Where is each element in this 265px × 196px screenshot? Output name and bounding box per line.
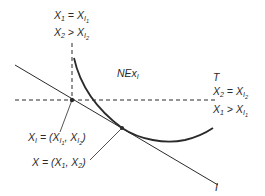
- label-x1-gt-xi1: X1 > XI1: [213, 104, 248, 118]
- leader-xi: [60, 100, 72, 132]
- label-x2-eq-xi2: X2 = XI2: [213, 86, 248, 100]
- leader-x: [90, 128, 122, 160]
- label-x2-gt-xi2: X2 > XI2: [54, 27, 89, 41]
- label-point-x: X = (X1, X2): [32, 157, 86, 169]
- label-line-I: I: [215, 182, 218, 193]
- point-x: [120, 126, 124, 130]
- point-xi: [70, 98, 74, 102]
- label-T: T: [213, 72, 219, 83]
- label-x1-eq-xi1: X1 = XI1: [54, 10, 89, 24]
- label-point-xi: XI = (XI1, XI2): [28, 132, 86, 146]
- label-nex-i: NExI: [117, 68, 139, 80]
